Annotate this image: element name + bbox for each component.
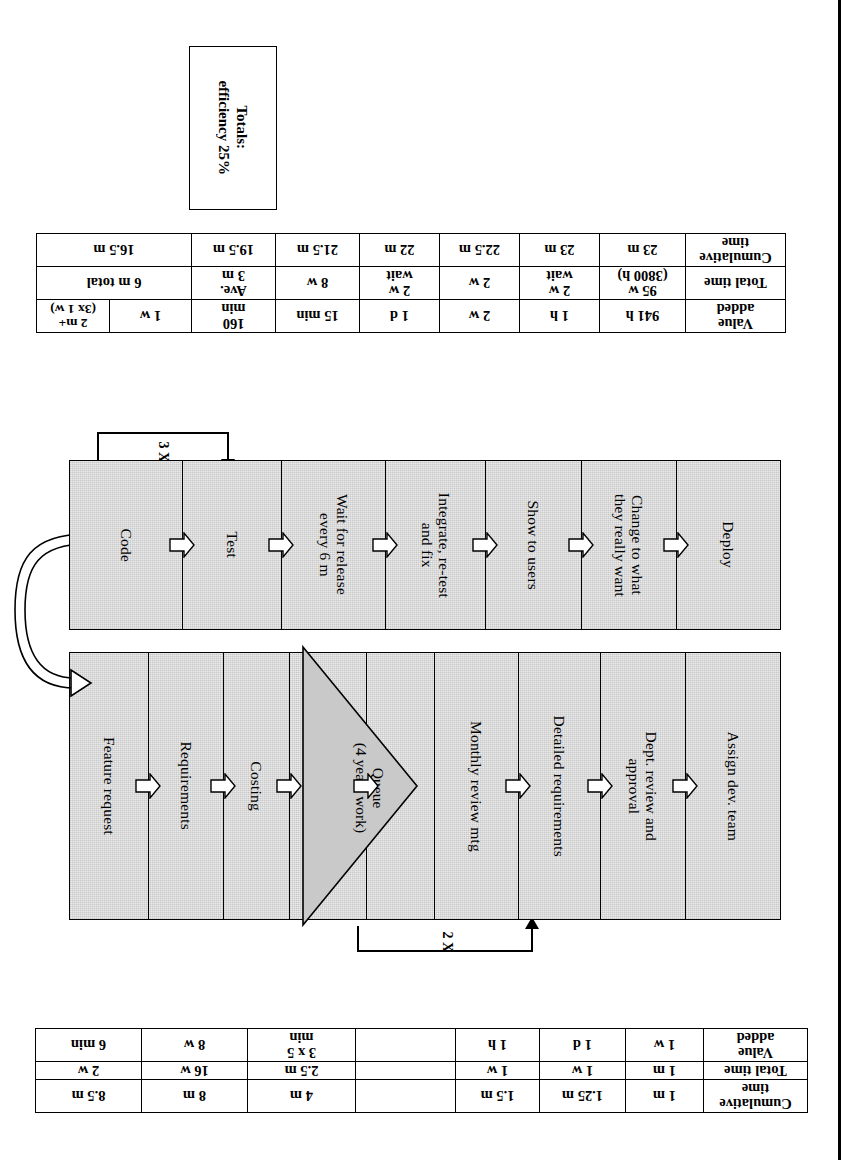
cell-cumulative-4: 22 m <box>360 233 440 266</box>
flow-arrow-icon <box>135 773 161 799</box>
step-label: Show to users <box>525 500 542 590</box>
upper-metrics-table: Value added 941 h 1 h 2 w 1 d 15 min 160… <box>36 233 786 333</box>
table-row-cumulative-time: Cumulative time 23 m 23 m 22.5 m 22 m 21… <box>37 233 786 266</box>
cell-total-5: 8 w <box>276 266 360 299</box>
cell-total-5: 2.5 m <box>248 1061 356 1079</box>
flow-arrow-icon <box>353 773 379 799</box>
lower-process-band: Assign dev. team Dept. review and approv… <box>69 652 781 920</box>
loop-label-3x: 3 X <box>155 441 171 462</box>
process-step-wait-for-release[interactable]: Wait for release every 6 m <box>281 461 385 629</box>
cell-value-5: 15 min <box>276 299 360 332</box>
flow-arrow-icon <box>472 532 498 558</box>
table-row-value-added: Value added 941 h 1 h 2 w 1 d 15 min 160… <box>37 299 786 332</box>
totals-efficiency-label: Totals: efficiency 25% <box>215 81 251 176</box>
flow-arrow-icon <box>568 532 594 558</box>
step-label: Code <box>117 528 134 562</box>
flow-arrow-icon <box>169 532 195 558</box>
step-label: Change to what they really want <box>612 493 647 596</box>
cell-total-7: 2 w <box>36 1061 142 1079</box>
step-label: Requirements <box>177 742 194 831</box>
cell-value-3: 1 h <box>456 1028 540 1061</box>
cell-total-7: 6 m total <box>37 266 192 299</box>
process-step-change-to-what-they-really-want[interactable]: Change to what they really want <box>581 461 677 629</box>
step-label: Deploy <box>720 522 737 569</box>
cell-cumulative-1: 23 m <box>600 233 686 266</box>
upper-process-band: Deploy Change to what they really want S… <box>69 460 781 630</box>
cell-value-5: 3 x 5 min <box>248 1028 356 1061</box>
flow-arrow-icon <box>663 532 689 558</box>
cell-total-6: Ave. 3 m <box>192 266 276 299</box>
step-label: Dept. review and approval <box>625 731 660 841</box>
table-row-value-added: Value added 1 w 1 d 1 h 3 x 5 min 8 w 6 … <box>36 1028 808 1061</box>
cell-cumulative-2: 23 m <box>520 233 600 266</box>
figure-page: Cumulative time 1 m 1.25 m 1.5 m 4 m 8 m… <box>0 0 841 1160</box>
row-header-value-added: Value added <box>686 299 786 332</box>
process-step-integrate-retest-and-fix[interactable]: Integrate, re-test and fix <box>385 461 485 629</box>
process-step-monthly-review-mtg[interactable]: Monthly review mtg <box>434 653 518 919</box>
cell-value-7: 6 min <box>36 1028 142 1061</box>
cell-cumulative-4 <box>356 1079 456 1112</box>
cell-value-1: 1 w <box>626 1028 704 1061</box>
cell-cumulative-5: 4 m <box>248 1079 356 1112</box>
cell-value-4 <box>356 1028 456 1061</box>
cell-value-3: 2 w <box>440 299 520 332</box>
cell-cumulative-1: 1 m <box>626 1079 704 1112</box>
cell-value-2: 1 d <box>540 1028 626 1061</box>
table-row-total-time: Total time 95 w (3800 h) 2 w wait 2 w 2 … <box>37 266 786 299</box>
cell-total-3: 2 w <box>440 266 520 299</box>
table-row-total-time: Total time 1 m 1 w 1 w 2.5 m 16 w 2 w <box>36 1061 808 1079</box>
table-row-cumulative-time: Cumulative time 1 m 1.25 m 1.5 m 4 m 8 m… <box>36 1079 808 1112</box>
flow-arrow-icon <box>210 773 236 799</box>
step-label: Assign dev. team <box>724 731 741 840</box>
process-step-show-to-users[interactable]: Show to users <box>485 461 581 629</box>
step-label: Integrate, re-test and fix <box>418 492 453 597</box>
rotated-figure-container: Cumulative time 1 m 1.25 m 1.5 m 4 m 8 m… <box>0 0 841 1160</box>
flow-arrow-icon <box>268 532 294 558</box>
cell-cumulative-5: 21.5 m <box>276 233 360 266</box>
cell-cumulative-6: 8 m <box>142 1079 248 1112</box>
row-header-cumulative-time: Cumulative time <box>704 1079 808 1112</box>
loop-annotation-2x: 2 X <box>357 926 533 970</box>
cell-value-6: 8 w <box>142 1028 248 1061</box>
process-step-test[interactable]: Test <box>182 461 282 629</box>
cell-total-6: 16 w <box>142 1061 248 1079</box>
flow-arrow-icon <box>672 773 698 799</box>
row-header-cumulative-time: Cumulative time <box>686 233 786 266</box>
cell-total-1: 95 w (3800 h) <box>600 266 686 299</box>
lower-metrics-table: Cumulative time 1 m 1.25 m 1.5 m 4 m 8 m… <box>35 1028 808 1113</box>
cell-total-4: 2 w wait <box>360 266 440 299</box>
row-header-total-time: Total time <box>686 266 786 299</box>
cell-value-2: 1 h <box>520 299 600 332</box>
step-label: Test <box>223 532 240 558</box>
flow-arrow-icon <box>372 532 398 558</box>
cell-value-6: 160 min <box>192 299 276 332</box>
loop-label-2x: 2 X <box>439 931 455 952</box>
step-label: Feature request <box>100 737 117 835</box>
cell-value-8: 2 m+ (3x 1 w) <box>37 299 110 332</box>
totals-efficiency-cell: Totals: efficiency 25% <box>189 46 277 210</box>
process-step-code[interactable]: Code <box>70 461 182 629</box>
cell-cumulative-2: 1.25 m <box>540 1079 626 1112</box>
row-header-value-added: Value added <box>704 1028 808 1061</box>
process-step-assign-dev-team[interactable]: Assign dev. team <box>685 653 780 919</box>
cell-total-1: 1 m <box>626 1061 704 1079</box>
cell-cumulative-6: 19.5 m <box>192 233 276 266</box>
cell-total-3: 1 w <box>456 1061 540 1079</box>
flow-arrow-icon <box>276 773 302 799</box>
process-step-deploy[interactable]: Deploy <box>676 461 780 629</box>
flow-arrow-icon <box>587 773 613 799</box>
row-header-total-time: Total time <box>704 1061 808 1079</box>
flow-arrow-icon <box>505 773 531 799</box>
cell-cumulative-3: 1.5 m <box>456 1079 540 1112</box>
cell-cumulative-7: 16.5 m <box>37 233 192 266</box>
cell-total-2: 1 w <box>540 1061 626 1079</box>
cell-total-4 <box>356 1061 456 1079</box>
cell-value-4: 1 d <box>360 299 440 332</box>
cell-cumulative-7: 8.5 m <box>36 1079 142 1112</box>
step-label: Detailed requirements <box>551 715 568 857</box>
cell-value-1: 941 h <box>600 299 686 332</box>
loop-annotation-3x: 3 X <box>97 414 229 460</box>
step-label: Monthly review mtg <box>468 720 485 851</box>
step-label: Costing <box>247 761 264 811</box>
step-label: Wait for release every 6 m <box>316 495 351 596</box>
